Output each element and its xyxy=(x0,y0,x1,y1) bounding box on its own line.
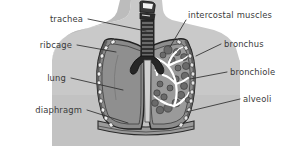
label-bronchiole: bronchiole xyxy=(230,68,275,77)
respiratory-system-diagram: trachea ribcage lung diaphragm intercost… xyxy=(0,0,293,146)
label-lung: lung xyxy=(47,74,66,83)
label-bronchus: bronchus xyxy=(224,40,264,49)
label-diaphragm: diaphragm xyxy=(35,106,82,115)
label-trachea: trachea xyxy=(50,15,83,24)
label-ribcage: ribcage xyxy=(40,41,72,50)
right-lung xyxy=(148,39,196,129)
label-alveoli: alveoli xyxy=(243,95,271,104)
label-intercostal-muscles: intercostal muscles xyxy=(188,11,272,20)
